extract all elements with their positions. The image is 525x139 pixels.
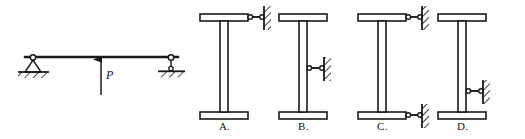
- option-b-web: [299, 21, 307, 112]
- option-a: [200, 6, 271, 119]
- option-b-bottom-flange: [279, 112, 327, 119]
- option-c: [358, 6, 429, 128]
- option-d-web: [458, 21, 466, 112]
- option-c-top-flange: [358, 14, 406, 21]
- option-c-bottom-flange: [358, 112, 406, 119]
- roller-support-ground-hatch: [158, 71, 185, 77]
- option-a-label: A.: [219, 120, 230, 132]
- option-b-link-mid-right: [307, 57, 331, 81]
- option-c-wall-hatch: [422, 104, 429, 128]
- option-a-top-flange: [200, 14, 248, 21]
- option-b-top-flange: [279, 14, 327, 21]
- option-c-link-top-right: [406, 6, 429, 30]
- point-load-label: P: [106, 68, 113, 83]
- option-b-label: B.: [298, 120, 309, 132]
- option-d-link-lower-right: [466, 80, 490, 104]
- figure-canvas: P A. B. C. D.: [0, 0, 525, 139]
- option-c-web: [378, 21, 386, 112]
- option-d-label: D.: [457, 120, 468, 132]
- option-b: [279, 14, 331, 119]
- mechanics-figure-svg: [0, 0, 525, 139]
- option-c-link-pin-structure: [406, 15, 411, 20]
- option-a-link-pin-structure: [248, 15, 253, 20]
- option-c-link-bottom-right: [406, 104, 429, 128]
- left-beam-diagram: [18, 55, 185, 95]
- option-a-wall-hatch: [264, 6, 271, 30]
- pin-support: [18, 55, 49, 78]
- option-c-wall-hatch: [422, 6, 429, 30]
- option-b-link-pin-structure: [307, 66, 312, 71]
- option-b-wall-hatch: [324, 57, 331, 81]
- option-d-bottom-flange: [438, 112, 486, 119]
- pin-support-ground-hatch: [18, 72, 49, 78]
- option-d-link-pin-structure: [466, 89, 471, 94]
- option-d-top-flange: [438, 14, 486, 21]
- option-d: [438, 14, 490, 119]
- option-c-label: C.: [377, 120, 388, 132]
- option-c-link-pin-structure: [406, 113, 411, 118]
- option-d-wall-hatch: [483, 80, 490, 104]
- option-a-bottom-flange: [200, 112, 248, 119]
- option-a-link-top-right: [248, 6, 271, 30]
- options-layer: [200, 6, 490, 128]
- option-a-web: [220, 21, 228, 112]
